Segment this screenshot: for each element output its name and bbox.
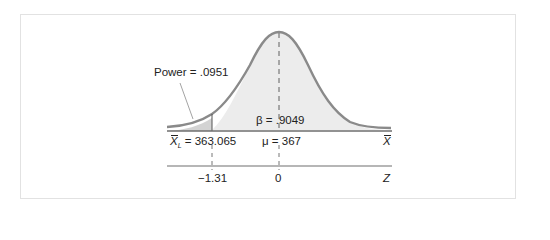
z-axis-label: Z	[383, 173, 390, 185]
beta-label: β = .9049	[256, 115, 305, 127]
z-zero-tick-label: 0	[275, 173, 281, 185]
xl-symbol: X	[170, 136, 178, 148]
power-label: Power = .0951	[154, 67, 228, 79]
mean-label: μ = 367	[262, 136, 301, 148]
xl-value: = 363.065	[182, 135, 237, 147]
power-pointer	[180, 83, 193, 119]
critical-value-label: XL = 363.065	[170, 136, 236, 149]
z-critical-tick-label: −1.31	[198, 173, 227, 185]
xbar-axis-label: X	[383, 136, 391, 148]
